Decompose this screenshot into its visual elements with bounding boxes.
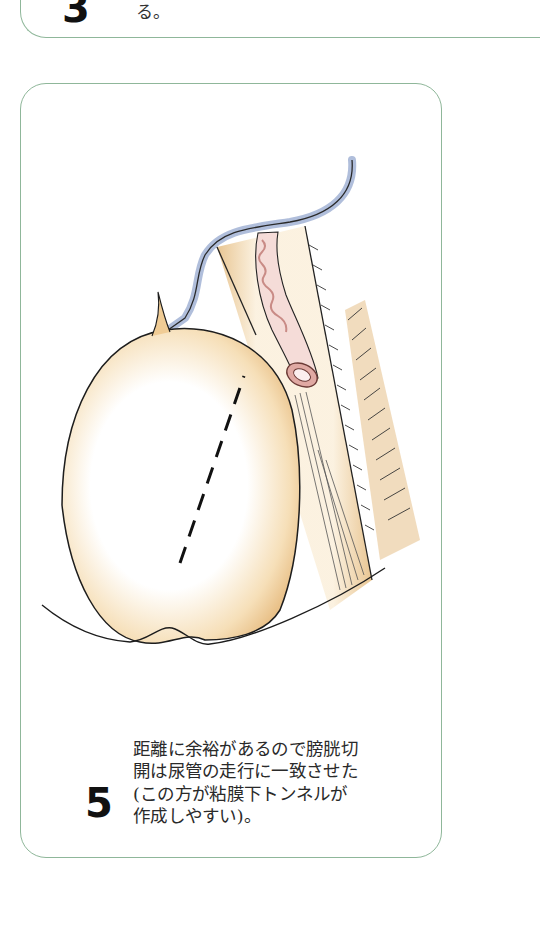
caption-line: (この方が粘膜下トンネルが <box>133 783 433 805</box>
step-caption: 距離に余裕があるので膀胱切 開は尿管の走行に一致させた (この方が粘膜下トンネル… <box>133 738 433 828</box>
caption-line: 作成しやすい)。 <box>133 805 433 827</box>
caption-line: 距離に余裕があるので膀胱切 <box>133 738 433 760</box>
step-number: 5 <box>85 783 113 823</box>
caption-line: 開は尿管の走行に一致させた <box>133 760 433 782</box>
